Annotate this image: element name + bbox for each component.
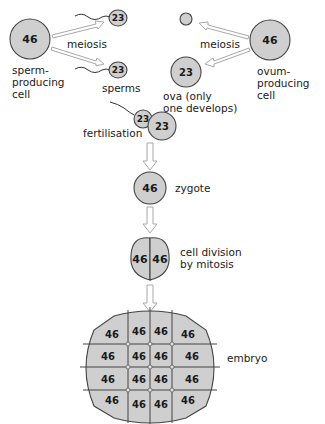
arrow-down-1 <box>143 143 157 170</box>
chromosome-count: 23 <box>155 121 169 132</box>
cell-division-label-line1: cell division <box>180 246 242 258</box>
chromosome-count: 23 <box>112 13 125 23</box>
svg-text:46: 46 <box>101 374 115 385</box>
sperm-cell-label-line1: sperm- <box>12 64 49 76</box>
diagram-canvas: 46 sperm- producing cell meiosis 23 23 s… <box>0 0 325 424</box>
embryo: 46 46 46 46 46 46 46 46 46 46 46 46 46 4… <box>80 307 220 424</box>
sperms-label: sperms <box>102 82 140 94</box>
svg-text:46: 46 <box>105 395 119 406</box>
meiosis-label-female: meiosis <box>200 38 240 50</box>
ovum: 23 <box>171 57 201 87</box>
ova-label-line2: one develops) <box>163 102 237 114</box>
chromosome-count: 46 <box>142 182 158 195</box>
ovum-cell-label-line3: cell <box>257 89 275 101</box>
chromosome-count: 46 <box>262 34 278 47</box>
fertilisation-ovum: 23 <box>148 112 176 140</box>
sperm-cell-label-line3: cell <box>12 88 30 100</box>
ova-label-line1: ova (only <box>163 90 212 102</box>
fertilisation-label: fertilisation <box>83 127 142 139</box>
embryo-label: embryo <box>227 352 267 364</box>
svg-text:46: 46 <box>132 351 146 362</box>
zygote: 46 <box>134 172 166 204</box>
svg-text:46: 46 <box>154 374 168 385</box>
svg-text:46: 46 <box>154 351 168 362</box>
svg-text:46: 46 <box>154 326 168 337</box>
sperm-producing-cell: 46 <box>10 19 50 59</box>
svg-text:46: 46 <box>185 374 199 385</box>
chromosome-count: 23 <box>137 114 150 124</box>
svg-text:46: 46 <box>181 395 195 406</box>
svg-text:46: 46 <box>101 351 115 362</box>
meiosis-arrow-female-lower <box>205 48 250 67</box>
sperm-cell-label-line2: producing <box>12 76 65 88</box>
svg-text:46: 46 <box>181 329 195 340</box>
chromosome-count: 23 <box>179 67 193 78</box>
svg-text:46: 46 <box>132 326 146 337</box>
svg-text:46: 46 <box>185 351 199 362</box>
svg-text:46: 46 <box>132 374 146 385</box>
ovum-cell-label-line1: ovum- <box>257 65 291 77</box>
polar-body <box>180 13 192 25</box>
chromosome-count: 46 <box>152 253 168 266</box>
ovum-producing-cell: 46 <box>250 20 290 60</box>
arrow-down-2 <box>143 207 157 233</box>
chromosome-count: 23 <box>112 65 125 75</box>
svg-text:46: 46 <box>154 399 168 410</box>
svg-text:46: 46 <box>105 329 119 340</box>
chromosome-count: 46 <box>22 33 38 46</box>
meiosis-label-male: meiosis <box>67 38 107 50</box>
meiosis-arrow-male-upper <box>52 21 104 38</box>
ovum-cell-label-line2: producing <box>257 77 310 89</box>
cell-division-label-line2: by mitosis <box>180 258 234 270</box>
meiosis-arrow-female-upper <box>199 22 249 39</box>
svg-text:46: 46 <box>132 399 146 410</box>
fertilisation-sperm: 23 <box>110 102 152 128</box>
zygote-label: zygote <box>175 182 210 194</box>
two-cell-stage: 46 46 <box>131 238 169 280</box>
chromosome-count: 46 <box>132 253 148 266</box>
